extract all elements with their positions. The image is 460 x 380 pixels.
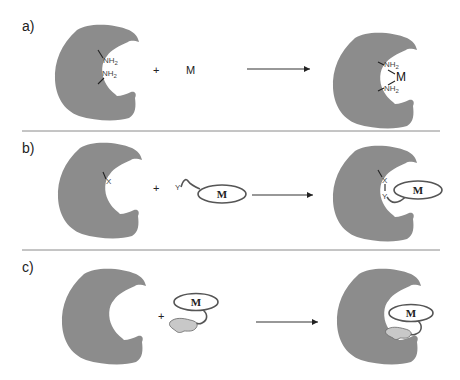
bound-complex-product: M <box>386 305 433 340</box>
protein-c-reactant <box>62 269 146 365</box>
svg-text:M: M <box>406 307 417 319</box>
panel-a-label: a) <box>22 18 34 34</box>
svg-text:Y: Y <box>382 192 388 201</box>
svg-text:NH2: NH2 <box>384 60 400 70</box>
plus-sign: + <box>153 182 159 194</box>
anchored-metal-complex: M <box>169 294 218 333</box>
svg-text:X: X <box>382 176 388 185</box>
svg-text:NH2: NH2 <box>102 69 118 79</box>
panel-b-label: b) <box>22 140 34 156</box>
protein-b-reactant <box>58 143 142 239</box>
svg-text:X: X <box>106 177 112 186</box>
figure-canvas: a) NH2 NH2 + M NH2 M NH2 b) <box>0 0 460 380</box>
plus-sign: + <box>158 310 164 322</box>
panel-c: c) + M M <box>22 259 433 364</box>
svg-text:Y: Y <box>175 183 181 192</box>
tethered-metal-complex: Y M <box>175 180 246 203</box>
svg-text:M: M <box>413 184 424 196</box>
metal-ion: M <box>186 64 195 76</box>
panel-c-label: c) <box>22 259 34 275</box>
svg-text:NH2: NH2 <box>103 56 119 66</box>
svg-text:M: M <box>217 188 228 200</box>
svg-text:NH2: NH2 <box>384 84 400 94</box>
plus-sign: + <box>153 64 159 76</box>
conjugated-complex-product: X Y M <box>378 170 442 202</box>
panel-a: a) NH2 NH2 + M NH2 M NH2 <box>22 18 417 128</box>
protein-a-reactant <box>55 25 139 121</box>
svg-text:M: M <box>191 296 202 308</box>
panel-b: b) X + Y M X Y M <box>22 140 442 241</box>
svg-text:M: M <box>396 70 406 84</box>
